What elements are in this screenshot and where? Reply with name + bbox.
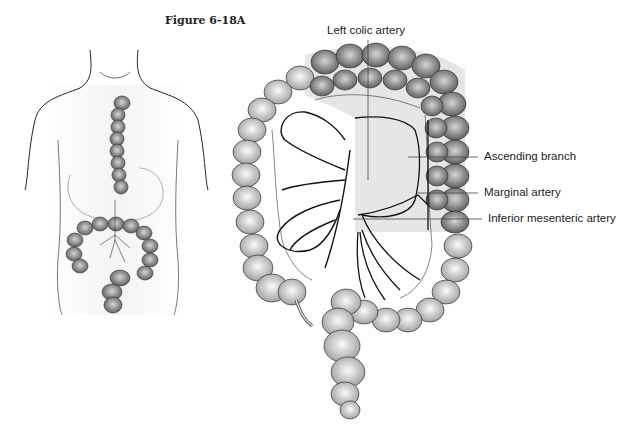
colon-detail [232,43,472,419]
figure-title: Figure 6-18A [165,14,245,27]
label-ascending-branch: Ascending branch [484,150,576,162]
label-inferior-mesenteric-artery: Inferior mesenteric artery [488,212,616,224]
label-marginal-artery: Marginal artery [484,186,561,198]
torso-overview [25,50,208,315]
label-left-colic-artery: Left colic artery [327,24,405,36]
